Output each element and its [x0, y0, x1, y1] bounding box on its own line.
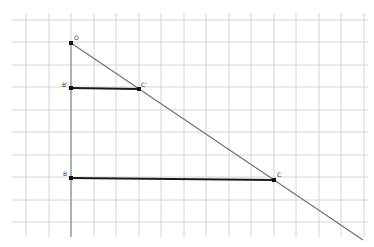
geometry-figure: OB'C'BC — [0, 0, 374, 247]
point-B — [69, 176, 73, 180]
points: OB'C'BC — [62, 34, 281, 182]
segment-BC — [71, 178, 274, 180]
point-O — [69, 41, 73, 45]
point-label-O: O — [74, 34, 79, 41]
point-label-Cp: C' — [141, 81, 147, 88]
grid — [12, 13, 368, 237]
segment-BpCp — [71, 88, 139, 89]
point-label-C: C — [277, 171, 281, 178]
point-label-Bp: B' — [62, 81, 68, 88]
parallel-segments — [71, 88, 274, 180]
point-C — [272, 178, 276, 182]
point-label-B: B — [63, 170, 67, 177]
point-Bp — [69, 86, 73, 90]
